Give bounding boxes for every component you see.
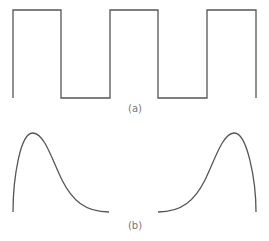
caption-a: (a)	[115, 103, 155, 114]
left-pulse-curve	[13, 133, 109, 212]
caption-b: (b)	[115, 220, 155, 231]
square-wave	[13, 10, 256, 98]
right-pulse-curve	[158, 133, 256, 212]
figure-canvas	[0, 0, 269, 241]
